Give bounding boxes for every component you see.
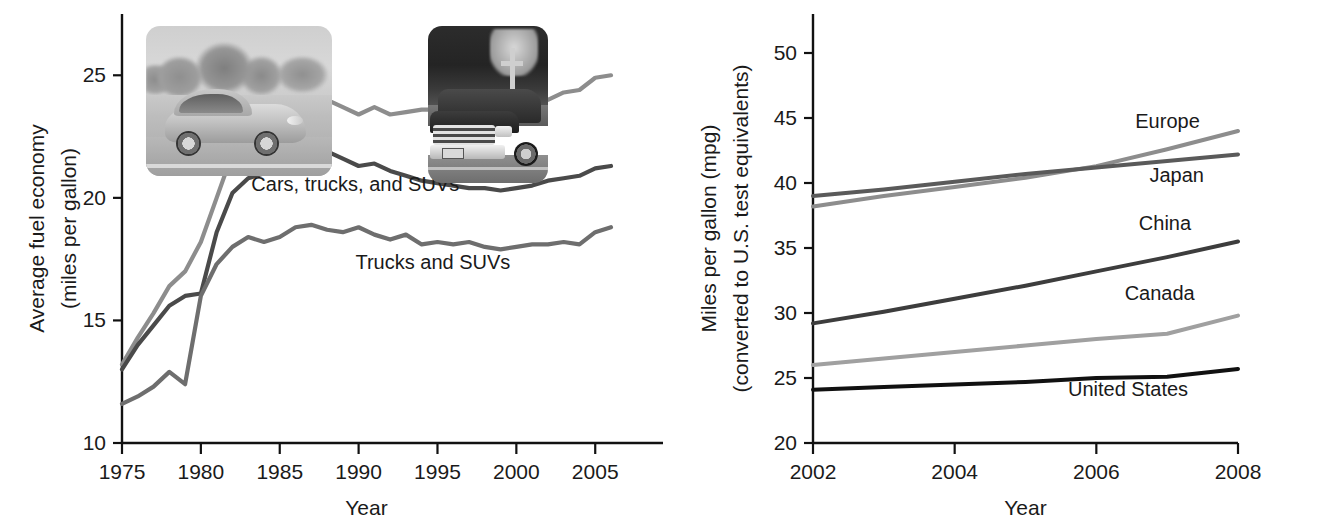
two-panel-fuel-economy-figure: 101520251975198019851990199520002005Year… bbox=[0, 0, 1339, 526]
series-label-china: China bbox=[1139, 212, 1192, 234]
x-tick-label: 2005 bbox=[572, 460, 619, 483]
series-label-europe: Europe bbox=[1135, 110, 1200, 132]
y-tick-label: 25 bbox=[83, 63, 106, 86]
x-tick-label: 1975 bbox=[99, 460, 146, 483]
x-tick-label: 2004 bbox=[931, 460, 978, 483]
us-fleet-fuel-economy-chart: 101520251975198019851990199520002005Year… bbox=[0, 0, 670, 526]
y-tick-label: 25 bbox=[774, 366, 797, 389]
y-tick-label: 35 bbox=[774, 236, 797, 259]
y-tick-label: 15 bbox=[83, 308, 106, 331]
y-tick-label: 40 bbox=[774, 171, 797, 194]
x-tick-label: 2008 bbox=[1215, 460, 1262, 483]
pickup-truck-photo bbox=[428, 26, 548, 183]
x-tick-label: 2006 bbox=[1073, 460, 1120, 483]
x-axis-title: Year bbox=[345, 496, 387, 519]
x-tick-label: 2000 bbox=[493, 460, 540, 483]
left-chart-panel: 101520251975198019851990199520002005Year… bbox=[0, 0, 670, 526]
y-tick-label: 50 bbox=[774, 41, 797, 64]
y-tick-label: 20 bbox=[774, 431, 797, 454]
y-axis-title-line2: (miles per gallon) bbox=[57, 148, 80, 309]
x-axis-title: Year bbox=[1004, 496, 1046, 519]
x-tick-label: 2002 bbox=[790, 460, 837, 483]
series-label-japan: Japan bbox=[1149, 164, 1204, 186]
series-label-canada: Canada bbox=[1125, 282, 1196, 304]
y-axis-title-line1: Average fuel economy bbox=[25, 124, 48, 333]
y-tick-label: 20 bbox=[83, 186, 106, 209]
y-tick-label: 10 bbox=[83, 431, 106, 454]
y-tick-label: 30 bbox=[774, 301, 797, 324]
x-tick-label: 1985 bbox=[256, 460, 303, 483]
y-tick-label: 45 bbox=[774, 106, 797, 129]
data-line-canada bbox=[813, 316, 1238, 365]
compact-car-photo bbox=[146, 26, 332, 176]
y-axis-title-line1: Miles per gallon (mpg) bbox=[697, 125, 720, 333]
series-label-trucks-and-suvs: Trucks and SUVs bbox=[355, 251, 510, 273]
x-tick-label: 1980 bbox=[178, 460, 225, 483]
y-axis-title-line2: (converted to U.S. test equivalents) bbox=[729, 65, 752, 393]
x-tick-label: 1995 bbox=[414, 460, 461, 483]
international-fuel-economy-chart: 202530354045502002200420062008YearMiles … bbox=[670, 0, 1339, 526]
series-label-united-states: United States bbox=[1068, 378, 1188, 400]
right-chart-panel: 202530354045502002200420062008YearMiles … bbox=[670, 0, 1339, 526]
x-tick-label: 1990 bbox=[335, 460, 382, 483]
